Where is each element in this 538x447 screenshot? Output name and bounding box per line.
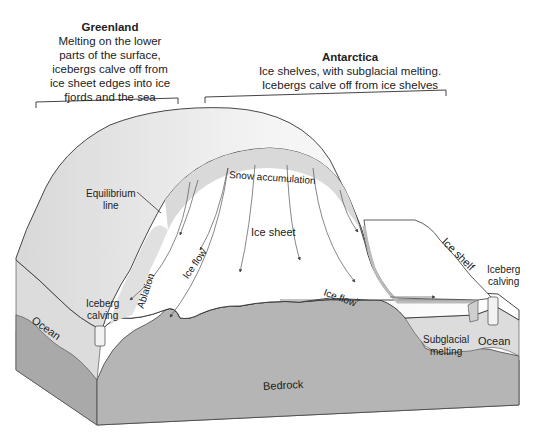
iceberg-calving-right-label: Iceberg calving [487,264,520,288]
greenland-line-1: Melting on the lower [59,35,162,47]
greenland-line-5: fjords and the sea [64,91,155,103]
greenland-line-3: icebergs calve off from [52,63,167,75]
greenland-line-4: ice sheet edges into ice [50,77,170,89]
left-iceberg [95,326,105,346]
antarctica-title: Antarctica [230,50,470,64]
iceberg-calving-left-label: Iceberg calving [86,298,119,322]
antarctica-line-1: Ice shelves, with subglacial melting. [259,65,441,77]
antarctica-caption: Antarctica Ice shelves, with subglacial … [230,50,470,92]
bedrock-label: Bedrock [263,378,304,392]
ocean-right-label: Ocean [478,335,510,347]
greenland-title: Greenland [40,20,180,34]
ice-sheet-label: Ice sheet [251,226,296,238]
greenland-line-2: parts of the surface, [59,49,161,61]
greenland-caption: Greenland Melting on the lower parts of … [40,20,180,104]
antarctica-line-2: Icebergs calve off from ice shelves [262,79,438,91]
right-iceberg [488,297,498,325]
equilibrium-line-label: Equilibrium line [86,188,135,212]
subglacial-melting-label: Subglacial melting [423,334,469,358]
